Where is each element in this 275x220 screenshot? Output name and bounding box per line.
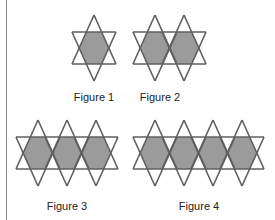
figure-4-label: Figure 4 bbox=[179, 200, 219, 212]
figure-3 bbox=[16, 120, 118, 186]
figure-2-label: Figure 2 bbox=[140, 91, 180, 103]
figures-canvas bbox=[0, 0, 275, 220]
figure-4 bbox=[133, 120, 264, 186]
figure-2 bbox=[133, 15, 206, 81]
figure-1-label: Figure 1 bbox=[74, 91, 114, 103]
figure-1 bbox=[72, 15, 116, 81]
figure-3-label: Figure 3 bbox=[47, 200, 87, 212]
